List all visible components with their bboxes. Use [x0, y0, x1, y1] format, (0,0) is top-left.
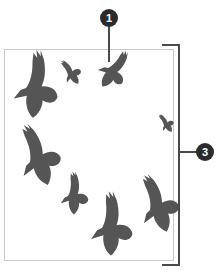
bird-icon	[0, 122, 68, 192]
callout-1-badge: 1	[100, 9, 118, 27]
bird-icon	[95, 46, 128, 90]
callout-1-leader	[108, 26, 110, 62]
bird-icon	[51, 170, 92, 217]
callout-3-label: 3	[202, 146, 208, 158]
bird-icon	[53, 59, 85, 88]
frame-height-bracket	[162, 44, 180, 266]
callout-3-leader	[180, 151, 197, 153]
callout-1-label: 1	[106, 12, 112, 24]
bird-flock	[0, 0, 222, 273]
bird-icon	[1, 48, 62, 121]
callout-3-badge: 3	[196, 143, 214, 161]
